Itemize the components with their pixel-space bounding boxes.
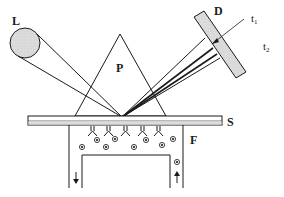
flow-cell-label: F bbox=[190, 133, 197, 147]
antibody bbox=[154, 126, 163, 136]
antibody bbox=[138, 126, 147, 136]
analyte bbox=[143, 137, 148, 142]
analyte bbox=[159, 142, 164, 147]
sensor-slide bbox=[28, 116, 222, 125]
antibody bbox=[104, 126, 113, 136]
analyte bbox=[94, 137, 99, 142]
prism-label: P bbox=[116, 61, 123, 75]
t2-label: t2 bbox=[263, 40, 270, 54]
spr-diagram: L P D t1 t2 S F bbox=[0, 0, 284, 197]
antibody bbox=[88, 126, 97, 136]
light-source bbox=[10, 28, 40, 58]
antibody bbox=[121, 126, 130, 136]
flow-cell bbox=[69, 125, 183, 188]
analyte bbox=[103, 144, 108, 149]
slide-label: S bbox=[227, 115, 234, 129]
inlet-arrow-icon bbox=[174, 171, 180, 183]
light-source-label: L bbox=[12, 14, 20, 28]
analyte bbox=[79, 144, 84, 149]
analyte bbox=[174, 159, 179, 164]
prism bbox=[75, 34, 166, 116]
outlet-arrow-icon bbox=[73, 172, 79, 184]
detector bbox=[194, 11, 246, 78]
t1-label: t1 bbox=[251, 12, 258, 26]
detector-label: D bbox=[214, 4, 223, 18]
analyte bbox=[170, 136, 175, 141]
analyte-particles bbox=[79, 136, 179, 164]
reflected-beams bbox=[122, 38, 220, 117]
analyte bbox=[112, 136, 117, 141]
antibodies bbox=[88, 126, 163, 136]
analyte bbox=[131, 144, 136, 149]
